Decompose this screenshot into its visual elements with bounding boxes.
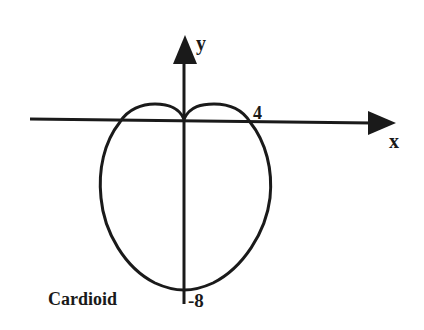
x-axis bbox=[30, 119, 372, 123]
x-axis-label: x bbox=[389, 131, 399, 151]
y-tick-label-neg8: -8 bbox=[188, 291, 204, 310]
cardioid-diagram bbox=[0, 0, 424, 330]
figure-caption: Cardioid bbox=[48, 290, 117, 308]
y-axis-label: y bbox=[196, 33, 206, 53]
y-axis-arrow-icon bbox=[173, 35, 197, 64]
x-tick-label-4: 4 bbox=[253, 104, 262, 122]
